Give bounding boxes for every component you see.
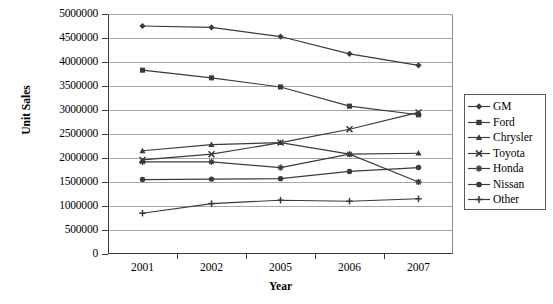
x-tick-label: 2006 bbox=[320, 261, 380, 273]
y-tick-mark bbox=[102, 86, 108, 87]
legend-label: Other bbox=[493, 194, 519, 206]
gridline bbox=[109, 230, 452, 231]
x-tick-label: 2002 bbox=[182, 261, 242, 273]
legend-marker-plus-icon bbox=[465, 192, 493, 207]
legend-marker-circle-icon bbox=[465, 177, 493, 192]
legend-label: Nissan bbox=[493, 179, 524, 191]
y-tick-mark bbox=[102, 110, 108, 111]
y-tick-label: 2000000 bbox=[12, 152, 98, 164]
legend-marker-diamond-icon bbox=[465, 99, 493, 114]
y-tick-mark bbox=[102, 254, 108, 255]
y-tick-label: 3500000 bbox=[12, 80, 98, 92]
y-tick-label: 0 bbox=[12, 248, 98, 260]
gridline bbox=[109, 206, 452, 207]
data-point-square bbox=[476, 120, 481, 125]
legend-item-ford[interactable]: Ford bbox=[465, 115, 545, 131]
chart-root: Unit Sales Year GMFordChryslerToyotaHond… bbox=[0, 0, 553, 304]
y-tick-mark bbox=[102, 14, 108, 15]
gridline bbox=[109, 110, 452, 111]
data-point-star bbox=[476, 165, 483, 172]
gridline bbox=[109, 158, 452, 159]
x-tick-mark bbox=[246, 254, 247, 259]
x-tick-mark bbox=[384, 254, 385, 259]
y-tick-label: 1000000 bbox=[12, 200, 98, 212]
y-tick-label: 500000 bbox=[12, 224, 98, 236]
gridline bbox=[109, 38, 452, 39]
y-tick-label: 4000000 bbox=[12, 56, 98, 68]
gridline bbox=[109, 134, 452, 135]
y-tick-mark bbox=[102, 134, 108, 135]
y-tick-label: 2500000 bbox=[12, 128, 98, 140]
legend-item-toyota[interactable]: Toyota bbox=[465, 146, 545, 162]
legend-marker-square-icon bbox=[465, 115, 493, 130]
legend-label: Chrysler bbox=[493, 132, 533, 144]
y-tick-mark bbox=[102, 182, 108, 183]
legend-marker-triangle-icon bbox=[465, 130, 493, 145]
gridline bbox=[109, 14, 452, 15]
x-axis-title: Year bbox=[108, 280, 453, 292]
legend-marker-star-icon bbox=[465, 161, 493, 176]
plot-area bbox=[108, 14, 453, 254]
gridline bbox=[109, 86, 452, 87]
data-point-diamond bbox=[476, 103, 483, 110]
y-tick-label: 1500000 bbox=[12, 176, 98, 188]
legend-item-chrysler[interactable]: Chrysler bbox=[465, 130, 545, 146]
legend-label: GM bbox=[493, 101, 512, 113]
y-tick-label: 4500000 bbox=[12, 32, 98, 44]
legend-item-other[interactable]: Other bbox=[465, 192, 545, 208]
chart-legend: GMFordChryslerToyotaHondaNissanOther bbox=[464, 94, 546, 210]
y-tick-label: 3000000 bbox=[12, 104, 98, 116]
y-tick-mark bbox=[102, 62, 108, 63]
data-point-plus bbox=[476, 196, 483, 203]
gridline bbox=[109, 62, 452, 63]
data-point-circle bbox=[476, 181, 482, 187]
x-tick-label: 2007 bbox=[389, 261, 449, 273]
legend-label: Toyota bbox=[493, 148, 525, 160]
y-tick-mark bbox=[102, 38, 108, 39]
legend-label: Honda bbox=[493, 163, 524, 175]
legend-item-nissan[interactable]: Nissan bbox=[465, 177, 545, 193]
y-tick-mark bbox=[102, 206, 108, 207]
gridline bbox=[109, 182, 452, 183]
legend-marker-cross-icon bbox=[465, 146, 493, 161]
x-tick-label: 2005 bbox=[251, 261, 311, 273]
legend-label: Ford bbox=[493, 117, 515, 129]
y-tick-mark bbox=[102, 158, 108, 159]
y-tick-mark bbox=[102, 230, 108, 231]
x-tick-mark bbox=[315, 254, 316, 259]
legend-item-honda[interactable]: Honda bbox=[465, 161, 545, 177]
y-tick-label: 5000000 bbox=[12, 8, 98, 20]
legend-item-gm[interactable]: GM bbox=[465, 99, 545, 115]
x-tick-label: 2001 bbox=[113, 261, 173, 273]
x-tick-mark bbox=[177, 254, 178, 259]
